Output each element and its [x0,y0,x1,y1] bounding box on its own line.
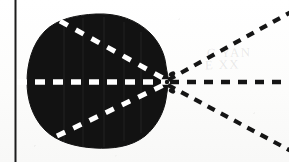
scanned-beam-diagram [0,0,289,162]
lower-ray [168,85,289,151]
figure-canvas: C YAN E XX [0,0,289,162]
upper-ray [168,12,289,80]
